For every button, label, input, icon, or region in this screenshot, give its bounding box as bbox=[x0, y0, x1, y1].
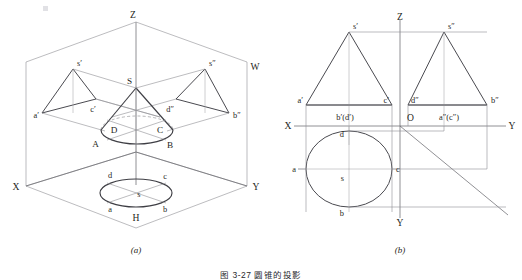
label-point-b-h-a: b bbox=[163, 205, 167, 214]
label-top-b-b: b bbox=[340, 209, 344, 218]
mitre-line-45deg-b bbox=[400, 126, 508, 215]
label-point-B-a: B bbox=[167, 140, 173, 150]
label-front-left-b: a′ bbox=[297, 96, 303, 105]
label-axis-y-right-b: Y bbox=[509, 120, 516, 131]
label-top-c-b: c bbox=[396, 165, 400, 174]
label-point-c-prime-a: c′ bbox=[90, 105, 96, 114]
label-axis-z-a: Z bbox=[130, 9, 136, 20]
label-side-left-b: d″ bbox=[411, 96, 419, 105]
label-axis-x-a: X bbox=[13, 181, 20, 192]
label-axis-y-a: Y bbox=[253, 181, 260, 192]
label-point-a-h-a: a bbox=[108, 205, 112, 214]
label-point-D-a: D bbox=[111, 125, 118, 135]
label-front-right-b: c′ bbox=[383, 96, 389, 105]
label-side-apex-b: s″ bbox=[448, 22, 455, 31]
side-triangle-a bbox=[176, 69, 229, 113]
panel-a-cone-solid bbox=[101, 86, 173, 152]
side-triangle-b bbox=[408, 32, 487, 105]
h-plane-edge-left-a bbox=[26, 186, 136, 228]
panel-a-front-view bbox=[42, 69, 160, 131]
label-point-a-prime-a: a′ bbox=[33, 111, 39, 120]
label-front-apex-b: s′ bbox=[353, 22, 358, 31]
label-point-s-dprime-a: s″ bbox=[209, 59, 216, 68]
label-point-d-dprime-a: d″ bbox=[166, 105, 174, 114]
figure-caption: 图 3-27 圆锥的投影 bbox=[0, 268, 522, 280]
label-top-s-b: s bbox=[341, 174, 344, 183]
label-point-b-dprime-a: b″ bbox=[233, 111, 241, 120]
panel-b-caption: (b) bbox=[395, 245, 406, 255]
label-side-center-b: a″(c″) bbox=[439, 113, 459, 122]
panel-b-side-view bbox=[408, 32, 487, 126]
tie-line-apex-w-a bbox=[136, 69, 205, 88]
front-triangle-a bbox=[42, 69, 96, 113]
tie-line-left-v-a bbox=[42, 113, 105, 131]
box-edge-top-right-a bbox=[136, 22, 247, 62]
panel-b-front-view bbox=[306, 32, 487, 145]
label-axis-z-b: Z bbox=[397, 11, 403, 22]
label-point-C-a: C bbox=[157, 125, 163, 135]
label-point-A-a: A bbox=[92, 139, 99, 149]
label-point-s-prime-a: s′ bbox=[77, 59, 82, 68]
box-edge-top-left-a bbox=[26, 22, 136, 62]
label-point-s-h-a: s bbox=[137, 190, 140, 199]
panel-a-labels: Z X Y W H S A B C D s′ a′ c′ s″ d″ b″ s … bbox=[13, 9, 261, 255]
tie-line-right-w-a bbox=[167, 113, 229, 131]
label-front-center-b: b′(d′) bbox=[336, 113, 354, 122]
label-side-right-b: b″ bbox=[491, 96, 499, 105]
label-point-c-h-a: c bbox=[163, 172, 167, 181]
panel-a-caption: (a) bbox=[131, 245, 142, 255]
label-point-S-a: S bbox=[127, 76, 132, 86]
label-origin-o-b: O bbox=[407, 112, 414, 123]
label-plane-w-a: W bbox=[250, 61, 260, 72]
label-axis-y-bottom-b: Y bbox=[397, 217, 404, 228]
panel-b-top-view bbox=[298, 126, 506, 212]
label-point-d-h-a: d bbox=[108, 171, 113, 180]
panel-b-axes bbox=[294, 20, 508, 218]
label-plane-h-a: H bbox=[133, 212, 140, 223]
label-axis-x-b: X bbox=[285, 120, 292, 131]
h-plane-edge-right-a bbox=[136, 186, 247, 228]
v-base-extend-a bbox=[96, 99, 160, 117]
label-top-a-b: a bbox=[292, 165, 296, 174]
